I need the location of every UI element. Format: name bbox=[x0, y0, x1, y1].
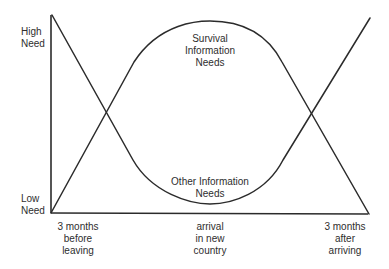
y-axis-low-label: Low Need bbox=[21, 193, 45, 217]
y-axis-high-label: High Need bbox=[21, 26, 45, 50]
x-tick-arrival: arrival in new country bbox=[172, 221, 248, 257]
x-tick-before-leaving: 3 months before leaving bbox=[40, 221, 116, 257]
survival-needs-label: Survival Information Needs bbox=[150, 33, 270, 69]
other-needs-label: Other Information Needs bbox=[150, 176, 270, 200]
x-tick-after-arriving: 3 months after arriving bbox=[307, 221, 383, 257]
x-axis bbox=[51, 213, 368, 214]
